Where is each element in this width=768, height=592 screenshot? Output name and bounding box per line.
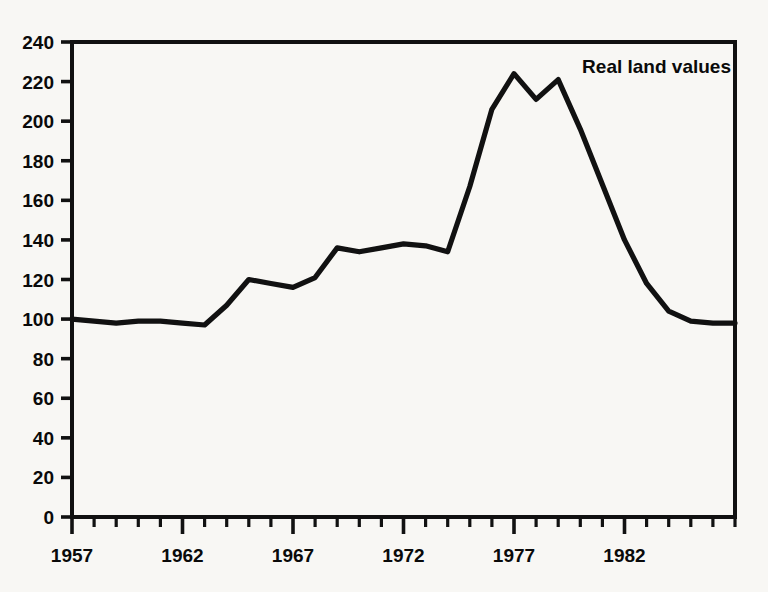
- y-axis-tick-label: 140: [22, 230, 54, 251]
- x-axis-tick-label: 1957: [51, 545, 93, 566]
- y-axis-tick-label: 0: [43, 507, 54, 528]
- x-axis-tick-label: 1982: [603, 545, 645, 566]
- line-chart-figure: 020406080100120140160180200220240 195719…: [0, 0, 768, 592]
- x-axis-tick-label: 1967: [272, 545, 314, 566]
- y-axis-tick-label: 20: [33, 467, 54, 488]
- y-axis-tick-label: 60: [33, 388, 54, 409]
- x-axis-tick-label: 1962: [161, 545, 203, 566]
- x-axis-tick-label: 1977: [493, 545, 535, 566]
- y-axis-tick-label: 160: [22, 190, 54, 211]
- y-axis-tick-label: 240: [22, 32, 54, 53]
- y-axis-tick-label: 120: [22, 270, 54, 291]
- chart-background: [0, 0, 768, 592]
- y-axis-tick-label: 40: [33, 428, 54, 449]
- y-axis-tick-label: 180: [22, 151, 54, 172]
- y-axis-tick-label: 100: [22, 309, 54, 330]
- x-axis-tick-label: 1972: [382, 545, 424, 566]
- chart-container: 020406080100120140160180200220240 195719…: [0, 0, 768, 592]
- y-axis-tick-label: 200: [22, 111, 54, 132]
- y-axis-tick-label: 220: [22, 72, 54, 93]
- series-annotation-label: Real land values: [582, 56, 731, 77]
- y-axis-tick-label: 80: [33, 349, 54, 370]
